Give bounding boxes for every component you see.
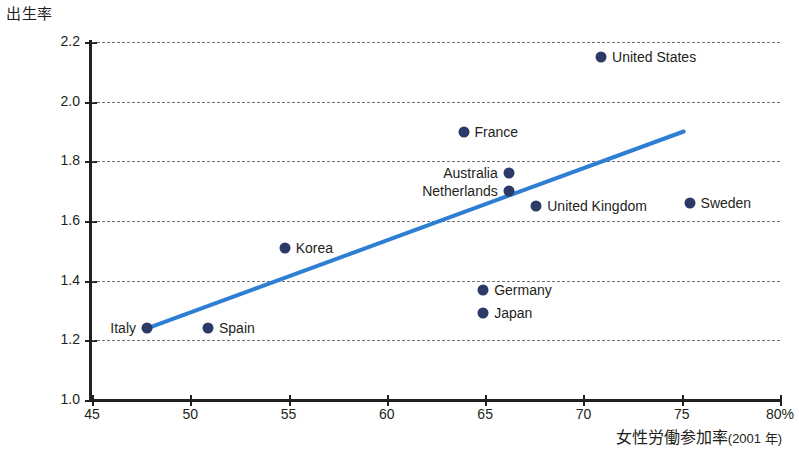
x-tick-label: 70 (553, 406, 613, 422)
x-tick-label: 75 (652, 406, 712, 422)
x-tick-label: 65 (455, 406, 515, 422)
y-tick-label: 1.6 (40, 212, 80, 228)
data-point (503, 168, 514, 179)
data-point-label: Sweden (701, 195, 752, 211)
data-point (503, 186, 514, 197)
x-tick-label: 55 (259, 406, 319, 422)
trend-line (92, 42, 780, 400)
data-point (458, 126, 469, 137)
data-point-label: France (475, 124, 519, 140)
y-axis-title: 出生率 (6, 2, 53, 23)
x-tick-label: 80% (750, 406, 799, 422)
data-point (684, 198, 695, 209)
data-point-label: Australia (443, 165, 497, 181)
x-tick-label: 60 (357, 406, 417, 422)
data-point (531, 201, 542, 212)
data-point (142, 323, 153, 334)
data-point-label: Germany (494, 282, 552, 298)
data-point (279, 242, 290, 253)
x-tick-label: 50 (160, 406, 220, 422)
y-tick-label: 2.2 (40, 33, 80, 49)
data-point-label: Spain (219, 320, 255, 336)
y-tick-mark (85, 400, 97, 402)
x-axis-title-main: 女性労働参加率 (616, 429, 728, 446)
x-tick-mark (780, 395, 782, 406)
data-point (478, 284, 489, 295)
data-point-label: Italy (110, 320, 136, 336)
data-point (202, 323, 213, 334)
x-tick-label: 45 (62, 406, 122, 422)
x-axis-title-sub: (2001 年) (728, 431, 782, 446)
y-tick-label: 2.0 (40, 93, 80, 109)
data-point (596, 51, 607, 62)
y-tick-label: 1.2 (40, 331, 80, 347)
y-tick-label: 1.8 (40, 152, 80, 168)
data-point-label: Korea (296, 240, 333, 256)
y-tick-label: 1.4 (40, 272, 80, 288)
y-tick-label: 1.0 (40, 391, 80, 407)
data-point (478, 308, 489, 319)
data-point-label: United States (612, 49, 696, 65)
data-point-label: United Kingdom (547, 198, 647, 214)
data-point-label: Japan (494, 305, 532, 321)
plot-area: ItalySpainKoreaGermanyJapanFranceAustral… (92, 42, 780, 400)
data-point-label: Netherlands (422, 183, 498, 199)
x-axis-title: 女性労働参加率(2001 年) (616, 424, 782, 448)
